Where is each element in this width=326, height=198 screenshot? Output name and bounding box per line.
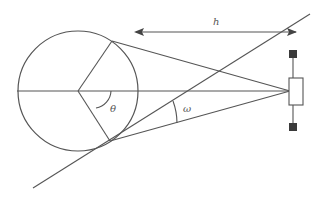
theta-arc (96, 91, 111, 108)
diagram-svg (0, 0, 326, 198)
sensor-bottom-marker (289, 123, 297, 131)
sensor-body (289, 78, 303, 105)
label-theta: θ (110, 104, 116, 114)
lower-radius (78, 91, 110, 141)
sensor-top-marker (289, 50, 297, 58)
upper-tangent-line (112, 41, 290, 91)
label-omega: ω (183, 104, 191, 114)
diagram-canvas: h θ ω (0, 0, 326, 198)
upper-radius (78, 41, 112, 91)
diagonal-line (33, 14, 310, 188)
omega-arc (173, 101, 177, 123)
label-h: h (213, 17, 219, 27)
